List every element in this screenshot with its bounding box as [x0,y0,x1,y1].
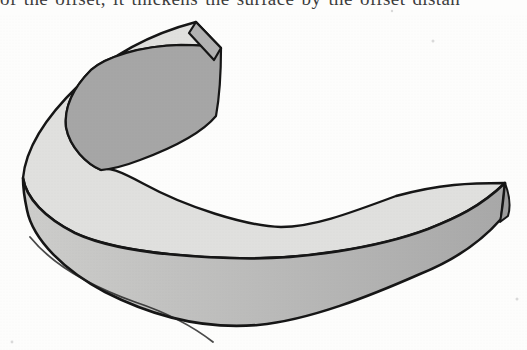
scan-speck [391,10,393,12]
scan-speck [516,298,519,301]
halftone-texture-overlay [0,14,527,350]
scan-speck [432,40,435,43]
scan-speck [11,341,14,344]
figure-thickened-surface [0,0,527,350]
c-ring-solid-illustration [0,0,527,350]
scanned-page: of the offset, it thickens the surface b… [0,0,527,350]
